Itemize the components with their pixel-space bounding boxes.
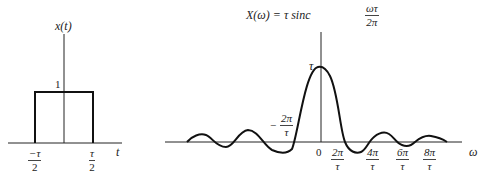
tick-denominator: τ [428, 160, 432, 172]
left-y-axis-label: x(t) [55, 20, 72, 32]
tick-denominator: τ [336, 160, 340, 172]
tick-denominator: 2 [89, 161, 95, 173]
tick-denominator: 2 [32, 161, 38, 173]
diagram-canvas [0, 0, 492, 182]
tick-4pi-over-tau: 4π τ [366, 147, 379, 172]
title-denominator: 2π [366, 16, 377, 28]
left-tick-tau-half: τ 2 [89, 148, 95, 173]
tick-numerator: −τ [28, 148, 41, 161]
neg-tick-2pi-over-tau: 2π τ [280, 113, 293, 138]
origin-label: 0 [316, 147, 322, 158]
neg-tick-sign: − [270, 120, 276, 131]
sinc-curve [187, 67, 447, 153]
pulse-height-label: 1 [55, 79, 61, 90]
tick-8pi-over-tau: 8π τ [423, 147, 436, 172]
left-x-axis-label: t [116, 146, 119, 158]
tick-denominator: τ [371, 160, 375, 172]
tick-numerator: 6π [396, 147, 409, 160]
tick-denominator: τ [401, 160, 405, 172]
title-sinc-argument: ωτ 2π [365, 3, 379, 28]
tick-numerator: 2π [280, 113, 293, 126]
tick-numerator: τ [89, 148, 95, 161]
tick-numerator: 8π [423, 147, 436, 160]
tick-6pi-over-tau: 6π τ [396, 147, 409, 172]
tick-2pi-over-tau: 2π τ [331, 147, 344, 172]
right-plot-title: X(ω) = τ sinc [246, 9, 311, 21]
tick-numerator: 2π [331, 147, 344, 160]
left-tick-neg-tau-half: −τ 2 [28, 148, 41, 173]
title-numerator: ωτ [365, 3, 379, 16]
tick-denominator: τ [285, 126, 289, 138]
peak-label: τ [309, 60, 313, 72]
title-text: X(ω) = τ sinc [246, 8, 311, 22]
tick-numerator: 4π [366, 147, 379, 160]
right-x-axis-label: ω [469, 146, 477, 158]
